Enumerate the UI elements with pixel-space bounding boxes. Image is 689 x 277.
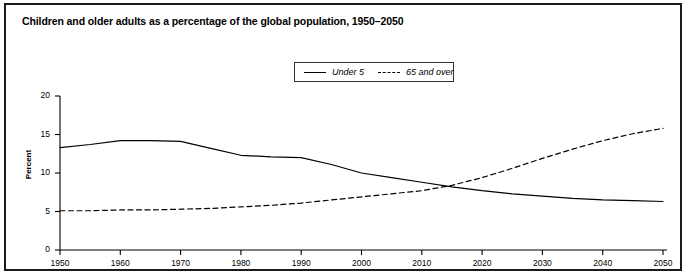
page-title: Children and older adults as a percentag… bbox=[22, 15, 403, 27]
legend-item-under-5: Under 5 bbox=[304, 63, 364, 81]
chart-legend: Under 5 65 and over bbox=[294, 62, 454, 82]
solid-line-swatch bbox=[304, 68, 326, 76]
dashed-line-swatch bbox=[378, 68, 400, 76]
legend-item-65-and-over: 65 and over bbox=[378, 63, 454, 81]
legend-label-under-5: Under 5 bbox=[332, 67, 364, 77]
legend-label-65-and-over: 65 and over bbox=[406, 67, 454, 77]
figure-frame: Children and older adults as a percentag… bbox=[4, 3, 682, 271]
